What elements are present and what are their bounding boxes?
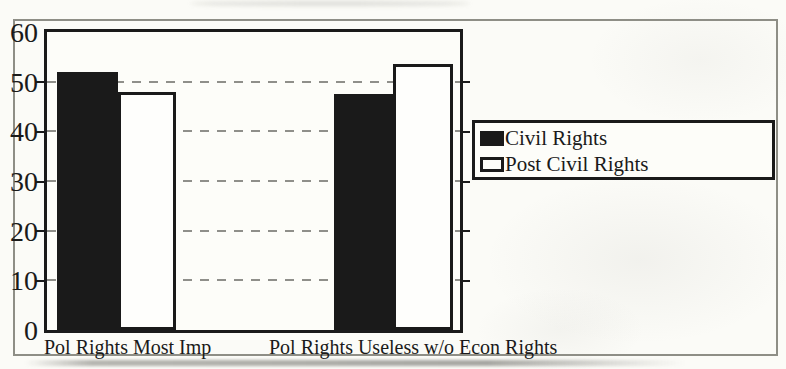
legend-swatch-outline-icon (480, 157, 504, 172)
legend-label-civil-rights: Civil Rights (505, 125, 607, 151)
x-axis: Pol Rights Most ImpPol Rights Useless w/… (0, 0, 786, 369)
legend-item-civil-rights: Civil Rights (480, 125, 768, 151)
legend-label-post-civil-rights: Post Civil Rights (505, 151, 649, 177)
category-label-2: Pol Rights Useless w/o Econ Rights (269, 335, 557, 359)
legend-swatch-filled-icon (480, 131, 504, 146)
scan-artifact-bottom (25, 360, 685, 366)
legend: Civil RightsPost Civil Rights (472, 120, 775, 180)
scanned-chart-figure: 0102030405060 Pol Rights Most ImpPol Rig… (0, 0, 786, 369)
category-label-1: Pol Rights Most Imp (44, 335, 211, 359)
legend-rows: Civil RightsPost Civil Rights (480, 125, 768, 177)
legend-item-post-civil-rights: Post Civil Rights (480, 151, 768, 177)
